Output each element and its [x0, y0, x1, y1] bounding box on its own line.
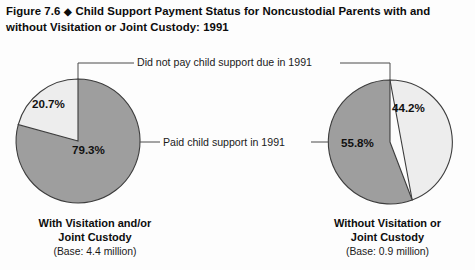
left-pie-value-did-not-pay: 20.7%	[32, 97, 65, 110]
figure-number: Figure 7.6	[6, 5, 60, 17]
left-chart-caption: With Visitation and/or Joint Custody (Ba…	[0, 216, 190, 259]
leader-line-did-not-pay-right	[340, 63, 390, 80]
right-caption-line-2: Joint Custody	[300, 230, 475, 244]
right-caption-line-1: Without Visitation or	[300, 216, 475, 230]
legend-label-paid: Paid child support in 1991	[163, 136, 285, 148]
right-caption-base: (Base: 0.9 million)	[300, 245, 475, 259]
right-chart-caption: Without Visitation or Joint Custody (Bas…	[300, 216, 475, 259]
diamond-bullet-icon: ◆	[60, 6, 75, 17]
right-pie-value-paid: 55.8%	[341, 136, 374, 149]
page-title: Figure 7.6◆Child Support Payment Status …	[6, 4, 470, 35]
left-caption-line-2: Joint Custody	[0, 230, 190, 244]
left-caption-base: (Base: 4.4 million)	[0, 245, 190, 259]
left-pie-value-paid: 79.3%	[72, 143, 105, 156]
legend-label-did-not-pay: Did not pay child support due in 1991	[137, 56, 312, 68]
right-pie-value-did-not-pay: 44.2%	[392, 101, 425, 114]
left-caption-line-1: With Visitation and/or	[0, 216, 190, 230]
chart-area: Did not pay child support due in 1991 Pa…	[0, 44, 475, 270]
